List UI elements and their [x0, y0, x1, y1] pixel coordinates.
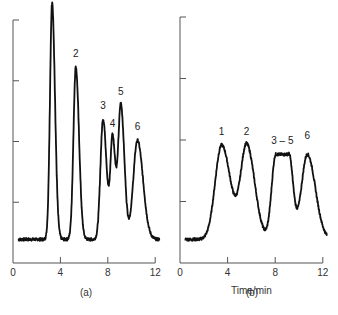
peak-label: 3 – 5	[271, 135, 294, 146]
x-tick-label: 4	[58, 267, 64, 278]
panel-label: (a)	[80, 287, 92, 298]
peak-label: 6	[135, 121, 141, 132]
peak-label: 6	[305, 130, 311, 141]
x-tick-label: 4	[225, 267, 231, 278]
x-tick-label: 0	[10, 267, 16, 278]
x-tick-label: 8	[105, 267, 111, 278]
x-tick-label: 8	[272, 267, 278, 278]
peak-label: 2	[244, 126, 250, 137]
peak-label: 2	[73, 48, 79, 59]
peak-label: 3	[100, 100, 106, 111]
chromatogram-trace	[185, 142, 327, 241]
x-tick-label: 0	[177, 267, 183, 278]
peak-label: 4	[110, 118, 116, 129]
x-tick-label: 12	[150, 267, 162, 278]
x-tick-label: 12	[317, 267, 329, 278]
peak-label: 1	[219, 126, 225, 137]
chromatogram-figure: 04812123456(a)04812123 – 56Time/min(b)	[0, 0, 338, 315]
panel-label: (b)	[246, 287, 258, 298]
peak-label: 5	[118, 86, 124, 97]
